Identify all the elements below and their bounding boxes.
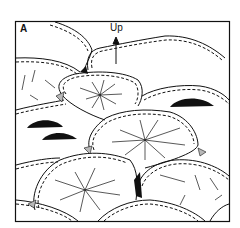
pillow-lava-diagram bbox=[0, 0, 240, 228]
cavity-fill bbox=[42, 133, 77, 140]
up-label: Up bbox=[110, 22, 123, 33]
interstitial-fill-black bbox=[134, 172, 142, 198]
up-arrow bbox=[113, 37, 119, 64]
panel-label: A bbox=[20, 23, 27, 34]
interstitial-fill bbox=[198, 148, 206, 156]
cavity-fill bbox=[27, 120, 63, 128]
cavity-fill bbox=[170, 99, 214, 107]
